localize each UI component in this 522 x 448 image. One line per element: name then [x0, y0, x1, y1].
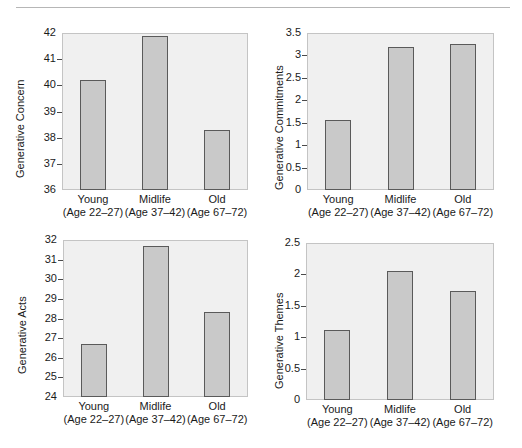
y-tick-label: 26 — [27, 352, 57, 363]
x-category-label: Old(Age 67–72) — [423, 193, 503, 219]
y-tick-mark — [302, 100, 307, 101]
y-tick-mark — [301, 274, 306, 275]
y-tick-label: 39 — [26, 106, 56, 117]
y-tick-label: 0.5 — [271, 162, 301, 173]
y-tick-mark — [57, 59, 62, 60]
y-tick-label: 42 — [26, 27, 56, 38]
x-category-age-range: (Age 67–72) — [177, 413, 257, 426]
bar-midlife — [143, 246, 169, 397]
bar-old — [204, 130, 230, 190]
y-tick-label: 0 — [270, 394, 300, 405]
y-tick-mark — [57, 85, 62, 86]
y-tick-label: 28 — [27, 313, 57, 324]
bar-young — [80, 80, 106, 190]
y-tick-label: 27 — [27, 332, 57, 343]
chart-panel-generative-acts: Generative Acts 242526272829303132 Young… — [0, 224, 261, 448]
y-tick-label: 37 — [26, 158, 56, 169]
x-category-label: Old(Age 67–72) — [177, 400, 257, 426]
bar-old — [450, 44, 476, 190]
y-tick-mark — [302, 55, 307, 56]
bar-midlife — [388, 47, 414, 190]
x-category-age-range: (Age 67–72) — [177, 206, 257, 219]
y-tick-label: 1.5 — [271, 117, 301, 128]
y-tick-label: 1.5 — [270, 300, 300, 311]
x-category-name: Young — [323, 193, 354, 205]
y-tick-label: 40 — [26, 79, 56, 90]
y-tick-mark — [58, 279, 63, 280]
x-category-name: Young — [78, 193, 109, 205]
y-axis-label: Generative Concern — [14, 80, 26, 178]
y-tick-mark — [302, 145, 307, 146]
y-tick-label: 2.5 — [271, 72, 301, 83]
y-tick-label: 24 — [27, 391, 57, 402]
y-tick-label: 0 — [271, 184, 301, 195]
y-tick-label: 3.5 — [271, 27, 301, 38]
bar-old — [204, 312, 230, 397]
y-tick-label: 3 — [271, 49, 301, 60]
chart-panel-generative-themes: Generative Themes 00.511.522.5 Young(Age… — [261, 224, 522, 448]
x-category-name: Midlife — [385, 193, 417, 205]
y-tick-mark — [302, 123, 307, 124]
y-tick-mark — [57, 164, 62, 165]
bar-young — [81, 344, 107, 397]
y-tick-label: 41 — [26, 53, 56, 64]
x-category-age-range: (Age 67–72) — [423, 416, 503, 429]
y-tick-mark — [58, 358, 63, 359]
x-category-label: Old(Age 67–72) — [423, 403, 503, 429]
bar-young — [325, 120, 351, 190]
y-tick-mark — [58, 319, 63, 320]
y-tick-mark — [301, 369, 306, 370]
y-tick-label: 31 — [27, 254, 57, 265]
y-tick-mark — [58, 338, 63, 339]
x-category-name: Midlife — [140, 400, 172, 412]
y-tick-label: 25 — [27, 371, 57, 382]
y-tick-mark — [301, 306, 306, 307]
y-tick-label: 30 — [27, 273, 57, 284]
y-tick-mark — [302, 78, 307, 79]
bar-midlife — [142, 36, 168, 190]
x-category-name: Midlife — [139, 193, 171, 205]
chart-panel-generative-concern: Generative Concern 36373839404142 Young(… — [0, 0, 261, 224]
y-tick-mark — [58, 260, 63, 261]
x-category-name: Midlife — [384, 403, 416, 415]
x-category-name: Old — [454, 403, 471, 415]
y-tick-label: 2 — [270, 268, 300, 279]
bar-old — [450, 291, 476, 400]
x-category-age-range: (Age 67–72) — [423, 206, 503, 219]
y-tick-label: 1 — [270, 331, 300, 342]
y-tick-label: 38 — [26, 132, 56, 143]
y-tick-label: 29 — [27, 293, 57, 304]
y-tick-label: 32 — [27, 234, 57, 245]
x-category-name: Young — [78, 400, 109, 412]
y-tick-mark — [302, 168, 307, 169]
bar-young — [324, 330, 350, 400]
bar-midlife — [387, 271, 413, 400]
y-tick-label: 36 — [26, 184, 56, 195]
chart-panel-generative-commitments: Generative Commitments 00.511.522.533.5 … — [261, 0, 522, 224]
y-tick-label: 1 — [271, 139, 301, 150]
x-category-label: Old(Age 67–72) — [177, 193, 257, 219]
y-tick-label: 0.5 — [270, 363, 300, 374]
y-tick-label: 2 — [271, 94, 301, 105]
x-category-name: Old — [454, 193, 471, 205]
figure-panel-grid: Generative Concern 36373839404142 Young(… — [0, 0, 522, 448]
y-tick-label: 2.5 — [270, 237, 300, 248]
y-tick-mark — [301, 337, 306, 338]
x-category-name: Young — [322, 403, 353, 415]
y-tick-mark — [57, 138, 62, 139]
x-category-name: Old — [208, 193, 225, 205]
y-tick-mark — [58, 299, 63, 300]
x-category-name: Old — [209, 400, 226, 412]
y-tick-mark — [58, 377, 63, 378]
y-tick-mark — [57, 112, 62, 113]
